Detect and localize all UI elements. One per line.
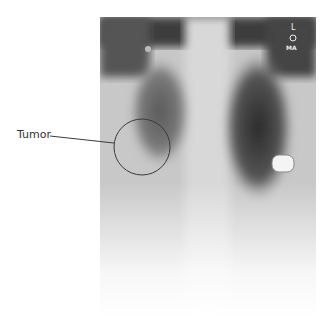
side-marker-l: L [291, 23, 296, 32]
tumor-label: Tumor [17, 128, 51, 141]
side-marker-ring-icon [290, 35, 296, 41]
annotation-overlay: L MA [0, 0, 333, 332]
tumor-circle-marker [114, 119, 170, 175]
pacemaker-device [272, 155, 294, 172]
side-marker-ma: MA [286, 44, 297, 51]
pointer-line [50, 136, 114, 143]
